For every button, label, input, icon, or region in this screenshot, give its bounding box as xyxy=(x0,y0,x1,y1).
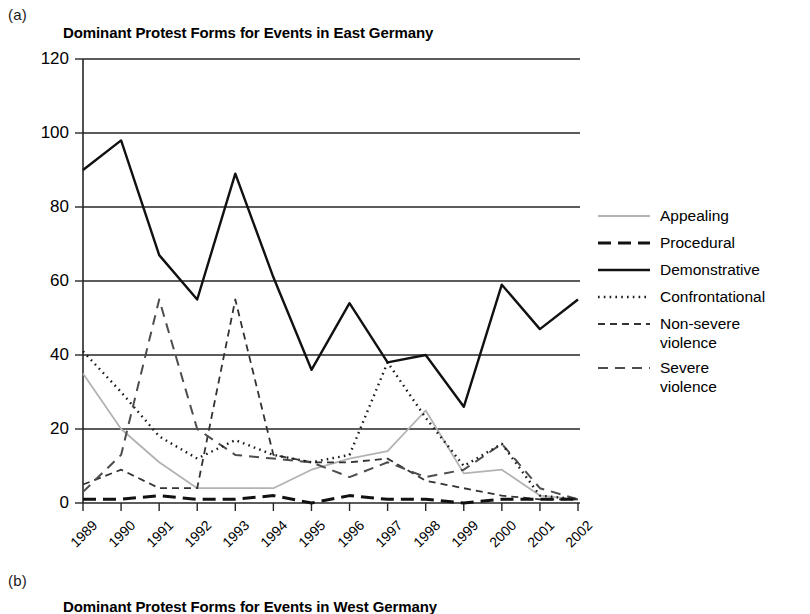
legend-label: Non-severe violence xyxy=(660,314,740,352)
legend-label: Appealing xyxy=(660,206,729,225)
series-line-appealing xyxy=(83,374,578,500)
legend-label: Procedural xyxy=(660,233,735,252)
panel-b-label: (b) xyxy=(8,572,27,589)
legend-item[interactable]: Appealing xyxy=(596,206,810,227)
legend-line-swatch xyxy=(596,314,652,332)
legend-item[interactable]: Confrontational xyxy=(596,287,810,308)
y-axis-tick-label: 100 xyxy=(25,123,69,143)
y-axis-tick-label: 40 xyxy=(25,345,69,365)
y-axis-tick-label: 60 xyxy=(25,271,69,291)
legend-label: Demonstrative xyxy=(660,260,760,279)
series-line-non-severe-violence xyxy=(83,300,578,500)
y-axis-tick-label: 80 xyxy=(25,197,69,217)
legend-item[interactable]: Demonstrative xyxy=(596,260,810,281)
y-axis-tick-label: 20 xyxy=(25,419,69,439)
y-axis-tick-label: 0 xyxy=(25,493,69,513)
legend-line-swatch xyxy=(596,233,652,251)
y-axis-tick-label: 120 xyxy=(25,49,69,69)
series-line-confrontational xyxy=(83,351,578,499)
legend-item[interactable]: Procedural xyxy=(596,233,810,254)
legend-label: Confrontational xyxy=(660,287,765,306)
series-line-severe-violence xyxy=(83,300,578,500)
legend-line-swatch xyxy=(596,358,652,376)
series-line-procedural xyxy=(83,496,578,503)
legend-item[interactable]: Severe violence xyxy=(596,358,810,396)
panel-b-title: Dominant Protest Forms for Events in Wes… xyxy=(63,598,437,614)
legend-item[interactable]: Non-severe violence xyxy=(596,314,810,352)
series-line-demonstrative xyxy=(83,140,578,406)
legend-line-swatch xyxy=(596,287,652,305)
legend-line-swatch xyxy=(596,206,652,224)
chart-legend: AppealingProceduralDemonstrativeConfront… xyxy=(596,206,810,402)
legend-line-swatch xyxy=(596,260,652,278)
legend-label: Severe violence xyxy=(660,358,717,396)
